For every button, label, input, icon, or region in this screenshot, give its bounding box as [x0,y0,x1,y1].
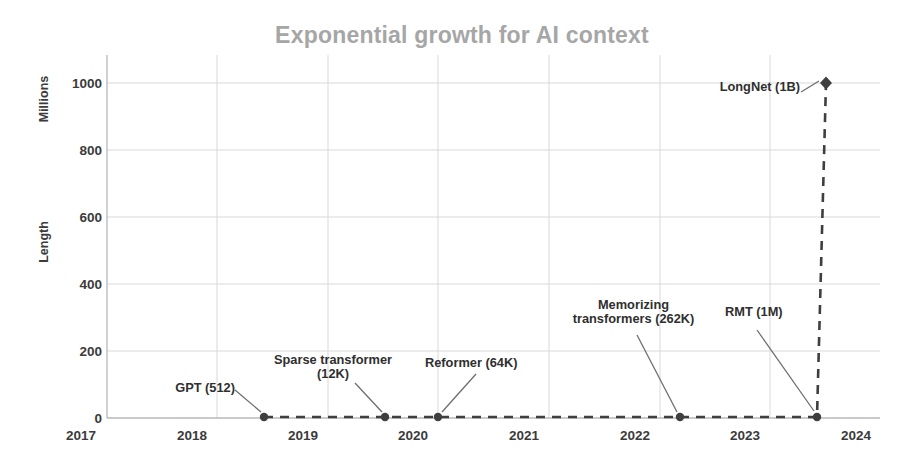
annotation-memorizing-transformers: Memorizing transformers (262K) [546,298,721,327]
annotation-longnet: LongNet (1B) [650,80,800,94]
marker-sparse-transformer[interactable] [381,413,389,421]
plot-area [0,0,924,469]
marker-longnet[interactable] [820,77,832,90]
marker-rmt[interactable] [813,413,821,421]
chart-container: Exponential growth for AI context Millio… [0,0,924,469]
marker-gpt[interactable] [260,413,268,421]
annotation-sparse-transformer: Sparse transformer (12K) [258,353,408,382]
annotation-rmt: RMT (1M) [725,305,835,319]
marker-memorizing-transformers[interactable] [676,413,684,421]
marker-reformer[interactable] [434,413,442,421]
annotation-gpt: GPT (512) [60,381,235,395]
leader-rmt [757,330,814,411]
leader-reformer [442,374,476,412]
leader-memorizing-transformers [637,335,677,412]
leader-sparse-transformer [355,383,382,412]
leader-gpt [235,390,261,412]
annotation-reformer: Reformer (64K) [425,356,575,370]
